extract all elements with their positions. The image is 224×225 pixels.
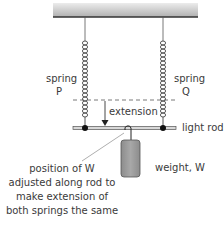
light-rod-label: light rod bbox=[182, 122, 224, 134]
attachment-point-q bbox=[160, 125, 166, 131]
spring-p-icon bbox=[82, 41, 87, 128]
extension-arrow-icon bbox=[102, 101, 109, 126]
extension-label: extension bbox=[109, 106, 158, 118]
note-line-2: adjusted along rod to bbox=[4, 177, 120, 189]
ceiling-support bbox=[53, 3, 198, 17]
attachment-point-p bbox=[82, 125, 88, 131]
spring-q-label-line1: spring bbox=[174, 73, 205, 85]
note-line-3: make extension of bbox=[4, 191, 120, 203]
leader-line bbox=[82, 133, 124, 161]
weight-block bbox=[121, 140, 140, 177]
weight-label: weight, W bbox=[155, 162, 205, 174]
spring-p-label-line1: spring bbox=[46, 73, 77, 85]
note-line-1: position of W bbox=[4, 163, 120, 175]
note-line-4: both springs the same bbox=[4, 205, 120, 217]
spring-q-icon bbox=[160, 41, 165, 128]
spring-q-label-line2: Q bbox=[182, 86, 190, 98]
spring-p-label-line2: P bbox=[56, 86, 62, 98]
